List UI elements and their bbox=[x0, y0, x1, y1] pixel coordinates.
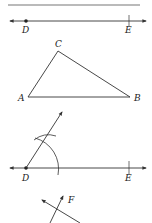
geometry-diagram: D E A B C D E F bbox=[0, 0, 152, 223]
ray-f-detail: F bbox=[42, 195, 80, 223]
label-a: A bbox=[17, 93, 25, 103]
line-de-top: D E bbox=[10, 15, 146, 35]
ray-from-d bbox=[26, 112, 62, 168]
label-e: E bbox=[124, 25, 132, 35]
label-c: C bbox=[55, 39, 62, 49]
label-f: F bbox=[67, 195, 75, 205]
construction-arc bbox=[35, 138, 59, 175]
label-e-construction: E bbox=[124, 173, 132, 183]
point-d bbox=[24, 19, 28, 23]
label-d-construction: D bbox=[21, 173, 29, 183]
triangle-abc: A B C bbox=[17, 39, 141, 103]
label-d: D bbox=[21, 25, 29, 35]
label-b: B bbox=[133, 93, 141, 103]
angle-construction: D E bbox=[10, 112, 146, 183]
